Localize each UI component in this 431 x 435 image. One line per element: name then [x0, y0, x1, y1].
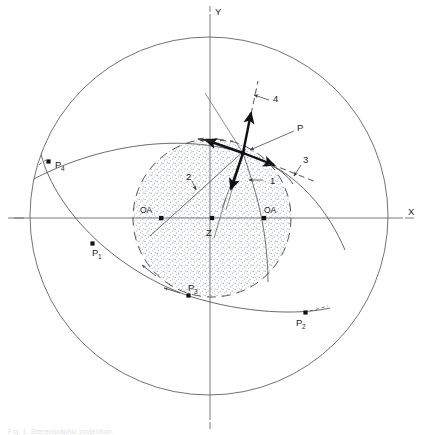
- marker-P2: [303, 310, 307, 314]
- figure-caption: Fig. 1. Stereographic projection.: [8, 428, 114, 435]
- leader-p: [250, 131, 294, 150]
- marker-P: [241, 151, 246, 156]
- marker-P3: [186, 293, 190, 297]
- svg-text:2: 2: [302, 323, 306, 330]
- numbered-label-4: 4: [273, 93, 278, 104]
- axis-label-y: Y: [215, 6, 222, 17]
- axis-label-x: X: [408, 206, 415, 217]
- numbered-label-2: 2: [186, 171, 191, 182]
- center-label-z: Z: [206, 227, 212, 238]
- optic-axis-label-left: OA: [140, 205, 153, 215]
- numbered-label-1: 1: [270, 175, 275, 186]
- svg-text:4: 4: [61, 165, 65, 172]
- svg-text:3: 3: [194, 288, 198, 295]
- marker-Z-center: [210, 216, 214, 220]
- leader-4: [254, 95, 269, 100]
- point-label-P1: P 1: [92, 247, 102, 260]
- optic-axis-label-right: OA: [264, 205, 277, 215]
- marker-OA-left: [159, 216, 163, 220]
- point-label-P2: P 2: [296, 317, 306, 330]
- marker-OA-right: [262, 216, 266, 220]
- marker-P1: [90, 241, 94, 245]
- point-label-P4: P 4: [55, 159, 65, 172]
- point-label-P: P: [297, 122, 303, 133]
- svg-text:1: 1: [98, 253, 102, 260]
- marker-P4: [46, 159, 50, 163]
- leader-3: [294, 165, 301, 176]
- numbered-label-3: 3: [303, 154, 308, 165]
